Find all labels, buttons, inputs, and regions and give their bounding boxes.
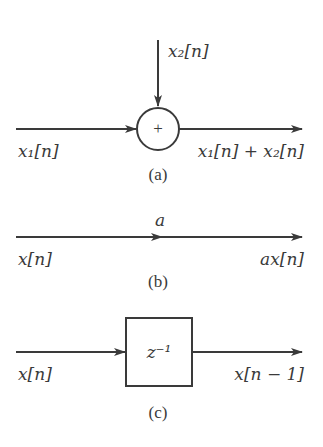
input-label: x[n] — [18, 249, 52, 269]
caption-b: (b) — [148, 272, 168, 291]
plus-symbol: + — [153, 119, 163, 138]
caption-a: (a) — [149, 165, 168, 184]
signal-flow-diagram: + x₂[n] x₁[n] x₁[n] + x₂[n] (a) a x[n] a… — [0, 0, 323, 447]
delay-label: z⁻¹ — [146, 342, 172, 362]
output-label: x[n − 1] — [234, 364, 304, 384]
input-label: x[n] — [18, 364, 52, 384]
caption-c: (c) — [149, 403, 168, 422]
gain-label: a — [155, 210, 165, 230]
panel-c-delay: z⁻¹ x[n] x[n − 1] (c) — [16, 318, 304, 422]
output-label: x₁[n] + x₂[n] — [198, 141, 305, 161]
input-top-label: x₂[n] — [168, 41, 209, 61]
output-label: ax[n] — [260, 249, 304, 269]
panel-a-adder: + x₂[n] x₁[n] x₁[n] + x₂[n] (a) — [16, 40, 304, 184]
panel-b-multiplier: a x[n] ax[n] (b) — [16, 210, 304, 291]
input-left-label: x₁[n] — [18, 141, 59, 161]
